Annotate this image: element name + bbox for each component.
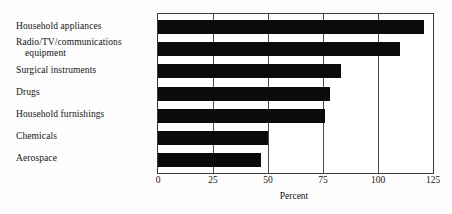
category-label: Radio/TV/communicationsequipment: [16, 37, 152, 59]
bar: [158, 42, 400, 56]
x-tick-label: 50: [263, 175, 273, 186]
bar-series: [158, 14, 433, 173]
category-label-line: Drugs: [16, 87, 152, 98]
category-label: Aerospace: [16, 153, 152, 164]
category-label-line: Household furnishings: [16, 109, 152, 120]
category-label: Surgical instruments: [16, 65, 152, 76]
x-axis-tick-labels: 0255075100125: [157, 173, 434, 189]
bar: [158, 64, 341, 78]
category-label-column: Household appliancesRadio/TV/communicati…: [0, 0, 152, 180]
x-tick-label: 75: [318, 175, 328, 186]
category-label: Household appliances: [16, 21, 152, 32]
category-label-line: equipment: [16, 48, 152, 59]
bar: [158, 87, 330, 101]
category-label: Drugs: [16, 87, 152, 98]
bar: [158, 131, 268, 145]
bar: [158, 109, 325, 123]
bar: [158, 20, 424, 34]
category-label-line: Radio/TV/communications: [16, 37, 152, 48]
x-tick-label: 125: [426, 175, 440, 186]
category-label: Household furnishings: [16, 109, 152, 120]
x-tick-label: 100: [371, 175, 385, 186]
category-label-line: Chemicals: [16, 131, 152, 142]
x-tick-label: 0: [156, 175, 161, 186]
category-label-line: Aerospace: [16, 153, 152, 164]
x-axis-title: Percent: [0, 191, 452, 201]
category-label-line: Surgical instruments: [16, 65, 152, 76]
plot-area: [157, 13, 434, 174]
x-axis-title-text: Percent: [280, 191, 309, 201]
category-label: Chemicals: [16, 131, 152, 142]
category-label-line: Household appliances: [16, 21, 152, 32]
x-tick-label: 25: [208, 175, 218, 186]
chart-screenshot: Household appliancesRadio/TV/communicati…: [0, 0, 452, 214]
bar: [158, 153, 261, 167]
